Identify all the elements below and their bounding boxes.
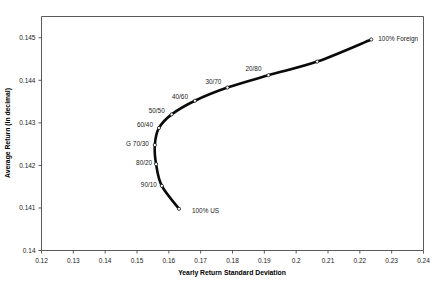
y-tick-label: 0.142 bbox=[19, 162, 36, 169]
data-point-marker bbox=[316, 60, 319, 63]
x-tick-label: 0.12 bbox=[35, 257, 48, 264]
y-axis-title: Average Return (in decimal) bbox=[4, 88, 12, 178]
y-tick-label: 0.14 bbox=[23, 247, 36, 254]
data-point-marker bbox=[153, 143, 156, 146]
x-tick-label: 0.21 bbox=[322, 257, 335, 264]
x-tick-label: 0.14 bbox=[99, 257, 112, 264]
x-tick-label: 0.17 bbox=[194, 257, 207, 264]
data-point-marker bbox=[267, 74, 270, 77]
data-point-marker bbox=[170, 113, 173, 116]
data-point-label: 60/40 bbox=[137, 121, 153, 128]
chart-canvas: 0.140.1410.1420.1430.1440.145 0.120.130.… bbox=[0, 0, 442, 281]
x-tick-label: 0.16 bbox=[163, 257, 176, 264]
x-tick-label: 0.19 bbox=[258, 257, 271, 264]
data-point-label: 100% US bbox=[192, 207, 219, 214]
data-point-marker bbox=[370, 38, 373, 41]
data-point-label: 20/80 bbox=[245, 65, 261, 72]
data-point-marker bbox=[226, 86, 229, 89]
data-point-marker bbox=[157, 126, 160, 129]
y-tick-label: 0.144 bbox=[19, 77, 36, 84]
chart-background bbox=[0, 0, 442, 281]
x-tick-label: 0.15 bbox=[131, 257, 144, 264]
x-tick-label: 0.23 bbox=[385, 257, 398, 264]
data-point-label: G 70/30 bbox=[126, 140, 149, 147]
data-point-label: 50/50 bbox=[149, 107, 165, 114]
x-tick-label: 0.18 bbox=[226, 257, 239, 264]
data-point-marker bbox=[160, 184, 163, 187]
data-point-marker bbox=[193, 99, 196, 102]
x-tick-label: 0.13 bbox=[67, 257, 80, 264]
data-point-label: 90/10 bbox=[141, 181, 157, 188]
y-tick-label: 0.141 bbox=[19, 204, 36, 211]
x-tick-label: 0.2 bbox=[292, 257, 301, 264]
data-point-label: 80/20 bbox=[136, 159, 152, 166]
data-point-marker bbox=[155, 163, 158, 166]
data-point-marker bbox=[177, 207, 180, 210]
data-point-label: 40/60 bbox=[172, 93, 188, 100]
data-point-label: 30/70 bbox=[205, 78, 221, 85]
y-tick-label: 0.143 bbox=[19, 119, 36, 126]
x-axis-title: Yearly Return Standard Deviation bbox=[178, 269, 286, 277]
x-tick-label: 0.24 bbox=[417, 257, 430, 264]
x-tick-label: 0.22 bbox=[354, 257, 367, 264]
y-tick-label: 0.145 bbox=[19, 34, 36, 41]
data-point-label: 100% Foreign bbox=[378, 35, 418, 43]
efficient-frontier-chart: 0.140.1410.1420.1430.1440.145 0.120.130.… bbox=[0, 0, 442, 281]
